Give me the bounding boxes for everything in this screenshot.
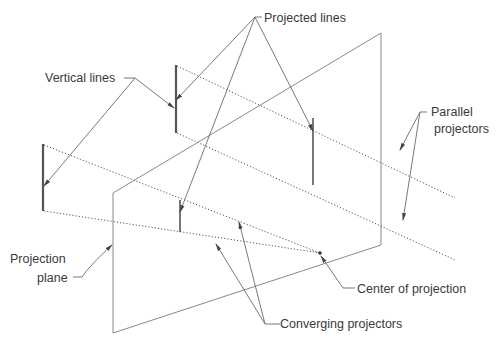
vertical-lines bbox=[43, 65, 176, 211]
center-of-projection-point bbox=[318, 251, 322, 255]
label-parallel-projectors-line1: Parallel bbox=[431, 105, 473, 119]
label-projected-lines: Projected lines bbox=[264, 11, 346, 25]
projected-lines bbox=[180, 118, 313, 232]
parallel-projectors bbox=[177, 66, 455, 260]
label-vertical-lines: Vertical lines bbox=[45, 71, 115, 85]
center-of-projection-leader bbox=[321, 256, 355, 288]
projection-diagram: Projected lines Vertical lines Parallel … bbox=[0, 0, 500, 342]
label-parallel-projectors-line2: projectors bbox=[434, 122, 489, 136]
converging-projectors bbox=[44, 145, 320, 253]
label-center-of-projection: Center of projection bbox=[357, 282, 466, 296]
projection-plane-leader bbox=[73, 245, 112, 277]
projection-plane bbox=[113, 33, 381, 333]
label-projection-plane-line2: plane bbox=[37, 271, 68, 285]
vertical-lines-leader bbox=[44, 78, 174, 186]
label-projection-plane-line1: Projection bbox=[10, 252, 66, 266]
parallel-projectors-leader bbox=[400, 112, 427, 220]
converging-projectors-leader bbox=[216, 222, 280, 324]
label-converging-projectors: Converging projectors bbox=[280, 317, 402, 331]
